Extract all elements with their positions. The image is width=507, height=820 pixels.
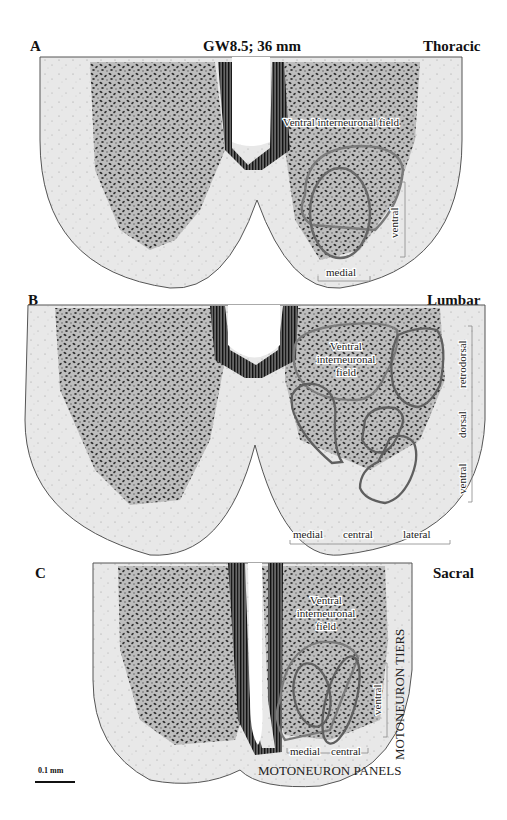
motoneuron-panels-heading: MOTONEURON PANELS xyxy=(258,763,401,778)
tier-label-retrodorsal: retrodorsal xyxy=(456,340,468,388)
tier-label-ventral: ventral xyxy=(371,684,383,715)
panel-label-medial: medial xyxy=(326,266,356,278)
section-lumbar: Ventral interneuronal field retrodorsal … xyxy=(25,305,485,555)
field-label-line-3: field xyxy=(336,366,357,378)
panel-label-lateral: lateral xyxy=(403,528,430,540)
field-label-line-1: Ventral xyxy=(330,340,362,352)
panel-label-medial: medial xyxy=(293,528,323,540)
panel-label-central: central xyxy=(343,528,373,540)
panel-label-central: central xyxy=(331,745,361,757)
field-label-line-3: field xyxy=(316,620,337,632)
panel-label-medial: medial xyxy=(290,745,320,757)
section-sacral: Ventral interneuronal field ventral MOTO… xyxy=(93,563,412,787)
label-ventral-interneuronal-field: Ventral interneuronal field xyxy=(283,116,400,128)
motoneuron-tiers-heading: MOTONEURON TIERS xyxy=(392,629,407,760)
scale-bar-label: 0.1 mm xyxy=(38,766,63,775)
tier-label-ventral: ventral xyxy=(388,207,400,238)
field-label-line-2: interneuronal xyxy=(297,607,356,619)
field-label-line-1: Ventral xyxy=(310,594,342,606)
tier-label-ventral: ventral xyxy=(456,463,468,494)
section-thoracic: Ventral interneuronal field ventral medi… xyxy=(40,57,462,288)
field-label-line-2: interneuronal xyxy=(317,353,376,365)
tier-label-dorsal: dorsal xyxy=(456,411,468,438)
figure-canvas: Ventral interneuronal field ventral medi… xyxy=(0,0,507,820)
scale-bar xyxy=(35,781,75,783)
